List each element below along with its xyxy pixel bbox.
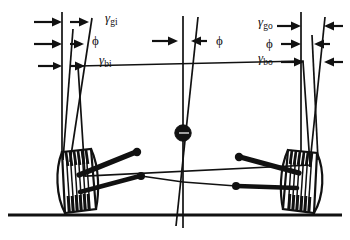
- left-wheel-plane-line: [70, 18, 92, 162]
- label-gamma-go: γgo: [258, 15, 273, 31]
- arrow-right-phi-inner: [281, 40, 301, 49]
- arrow-right-gamma-go-outer: [324, 22, 343, 31]
- arrow-left-gamma-bi-outer: [38, 62, 62, 70]
- left-kingpin-axis: [63, 29, 73, 160]
- right-angle-arrows: [277, 22, 343, 67]
- label-gamma-gi: γgi: [105, 11, 118, 27]
- suspension-geometry-diagram: γgi ϕ γbi ϕ γgo ϕ γbo: [0, 0, 350, 240]
- label-phi-left: ϕ: [92, 34, 99, 47]
- left-tie-rod: [141, 176, 183, 182]
- right-wheel: [281, 150, 322, 213]
- centre-angle-arrows: [152, 37, 207, 46]
- arrow-right-phi-outer: [314, 40, 330, 49]
- body-centreline: [176, 17, 198, 226]
- diagram-canvas: [0, 0, 350, 240]
- right-tie-rod: [183, 182, 236, 186]
- label-gamma-bi: γbi: [99, 53, 112, 69]
- left-tyre-shading: [66, 150, 89, 212]
- arrow-right-gamma-bo-outer: [324, 58, 343, 67]
- arrow-left-gamma-gi-outer: [34, 18, 62, 27]
- arrow-left-gamma-gi-inner: [70, 18, 89, 27]
- label-phi-center: ϕ: [216, 34, 223, 47]
- label-phi-right: ϕ: [266, 37, 273, 50]
- arrow-left-gamma-bi-inner: [70, 62, 85, 71]
- right-lower-arm: [232, 182, 297, 190]
- arrow-left-phi-outer: [34, 40, 62, 49]
- label-gamma-bo: γbo: [258, 51, 273, 67]
- right-tyre-shading: [289, 150, 312, 213]
- arrow-centre-left: [152, 37, 178, 46]
- arrow-centre-right: [191, 37, 207, 46]
- arrow-right-gamma-go-inner: [277, 22, 301, 31]
